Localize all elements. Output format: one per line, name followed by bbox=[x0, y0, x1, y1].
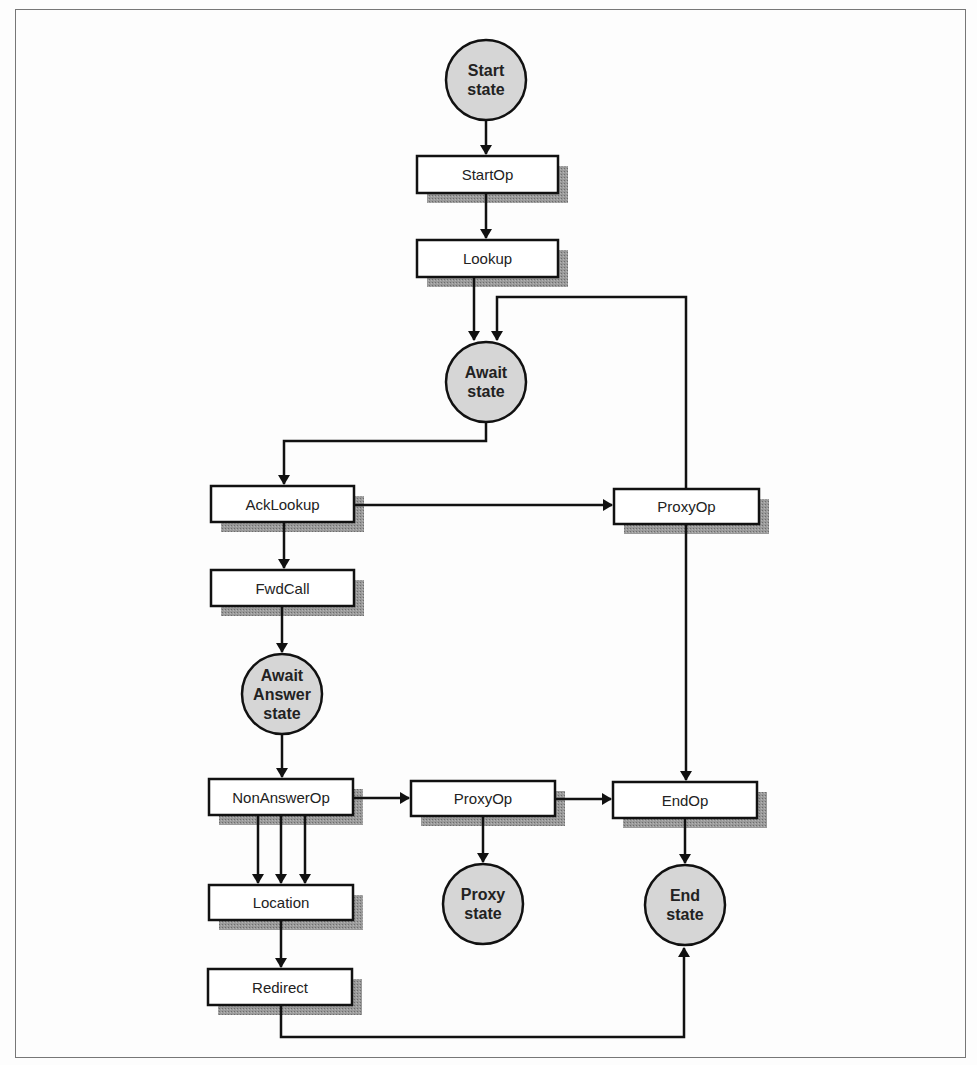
operation-label-fwdcall: FwdCall bbox=[211, 570, 354, 606]
state-label-end: End state bbox=[645, 865, 725, 945]
state-label-start: Start state bbox=[446, 40, 526, 120]
operation-label-lookup: Lookup bbox=[417, 240, 558, 277]
state-label-proxy: Proxy state bbox=[443, 864, 523, 944]
operation-label-redirect: Redirect bbox=[208, 969, 352, 1005]
operation-label-endop: EndOp bbox=[613, 782, 757, 818]
operation-label-acklookup: AckLookup bbox=[211, 486, 354, 522]
operation-label-proxyop-2: ProxyOp bbox=[411, 781, 555, 816]
state-label-await-answer: Await Answer state bbox=[242, 654, 322, 734]
operation-label-nonanswerop: NonAnswerOp bbox=[209, 779, 353, 815]
operation-label-startop: StartOp bbox=[417, 156, 558, 193]
state-label-await: Await state bbox=[446, 342, 526, 422]
operation-label-location: Location bbox=[209, 885, 353, 920]
operation-label-proxyop-1: ProxyOp bbox=[614, 489, 759, 524]
